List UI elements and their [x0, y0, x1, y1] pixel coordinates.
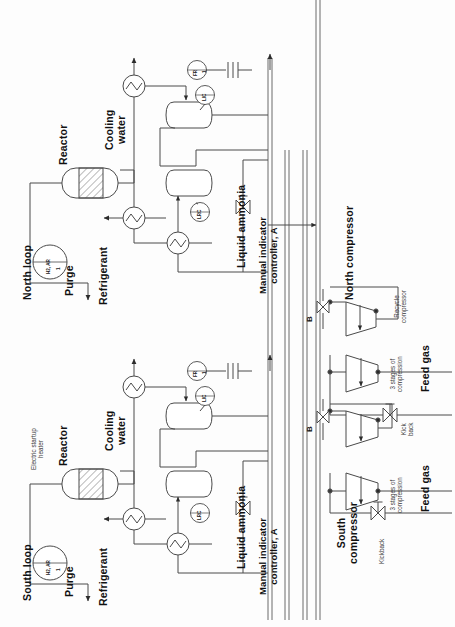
south-bypass-marker: B	[306, 426, 315, 432]
south-feed-gas-label: Feed gas	[420, 465, 432, 512]
south-separator-upper	[166, 403, 212, 429]
south-purge-label: Purge	[64, 566, 76, 597]
south-stages-label: 3 stages of compression	[389, 477, 403, 513]
south-cw-to-separator	[145, 387, 186, 401]
north-fr-orifice	[228, 62, 238, 78]
north-refrig-link	[134, 229, 167, 243]
south-separator-vapour-line	[160, 429, 196, 467]
north-kickback-label: Kick back	[400, 423, 414, 436]
south-fr-tag: FR	[193, 371, 198, 377]
south-refrigerant-chiller-2	[167, 533, 189, 555]
south-liquid-ammonia-label: Liquid ammonia	[236, 486, 248, 569]
south-h2ar-tag: H2, AR	[46, 560, 51, 575]
south-refrig-link	[134, 530, 167, 544]
north-recycle-disch-node	[374, 309, 378, 313]
south-recycle-disch-node	[376, 418, 380, 422]
south-refrigerant-label: Refrigerant	[98, 548, 110, 606]
north-h2ar-number: 1	[56, 267, 61, 270]
south-fr-number: 1	[202, 371, 207, 374]
north-cooling-water-exchanger	[123, 75, 145, 97]
north-sep-vapour-to-header	[178, 254, 268, 272]
north-recycle-compressor-label: Recycle compressor	[393, 290, 407, 323]
south-bypass-valve	[317, 411, 329, 423]
north-lic-tag: LIC	[202, 94, 207, 101]
south-lrc-tag: LRC	[197, 511, 202, 520]
north-separator-upper	[166, 102, 212, 128]
north-cooling-water-label: Cooling water	[104, 110, 128, 150]
north-feed-gas-compressor-body	[346, 355, 378, 392]
south-recycle-compressor-body	[346, 411, 378, 447]
process-flow-diagram-canvas	[0, 0, 455, 627]
south-separator-lower	[166, 471, 212, 497]
south-loop-title: South loop	[22, 544, 34, 601]
north-fr-number: 1	[202, 70, 207, 73]
south-kickback-valve	[371, 502, 385, 520]
north-separator-lower	[166, 170, 212, 196]
north-purge-line	[30, 283, 88, 300]
north-refrigerant-label: Refrigerant	[98, 247, 110, 305]
south-refrigerant-chiller-1	[123, 508, 145, 530]
north-reactor-label: Reactor	[58, 125, 70, 166]
south-lic-tag: LIC	[202, 395, 207, 402]
north-feed-disch-node	[376, 370, 380, 374]
south-sep-vapour-to-header	[178, 555, 268, 573]
north-separator-vapour-line	[160, 128, 196, 166]
south-loop-recycle-to-header	[196, 451, 268, 467]
north-liquid-ammonia-label: Liquid ammonia	[236, 185, 248, 268]
north-lrc-tag: LRC	[197, 210, 202, 219]
south-cooling-water-label: Cooling water	[104, 411, 128, 451]
north-stages-label: 3 stages of compression	[389, 356, 403, 392]
south-manual-indicator-controller-label: Manual indicator controller, A	[258, 518, 279, 595]
north-refrigerant-chiller-2	[167, 232, 189, 254]
south-kickback-label: Kickback	[378, 539, 385, 564]
north-bypass-valve	[317, 301, 329, 313]
north-purge-label: Purge	[64, 265, 76, 296]
south-purge-line	[30, 584, 88, 601]
south-feed-disch-node	[376, 489, 380, 493]
north-compressor-group	[317, 287, 452, 422]
north-h2ar-tag: H2, AR	[46, 259, 51, 274]
north-bypass-marker: B	[306, 316, 315, 322]
north-recycle-compressor-body	[346, 302, 376, 336]
north-feed-gas-label: Feed gas	[420, 345, 432, 392]
north-reactor	[62, 168, 118, 198]
south-reactor	[62, 469, 118, 499]
south-h2ar-number: 1	[56, 568, 61, 571]
south-fr-orifice	[228, 363, 238, 379]
north-fr-tag: FR	[193, 70, 198, 76]
north-chiller1-top	[120, 170, 134, 207]
north-refrigerant-chiller-1	[123, 207, 145, 229]
south-cooling-water-exchanger	[123, 376, 145, 398]
south-loop-group	[30, 355, 270, 601]
south-compressor-title: South compressor	[336, 502, 360, 564]
pfd-page: North loop Reactor Purge Refrigerant Coo…	[0, 0, 455, 627]
north-manual-indicator-controller-label: Manual indicator controller, A	[258, 217, 279, 294]
north-loop-title: North loop	[22, 245, 34, 300]
south-chiller1-top	[120, 471, 134, 508]
north-compressor-title: North compressor	[344, 206, 356, 300]
north-cw-to-separator	[145, 86, 186, 100]
north-loop-recycle-to-header	[196, 150, 268, 166]
south-reactor-label: Reactor	[58, 426, 70, 467]
south-electric-startup-heater-label: Electric startup heater	[30, 428, 44, 470]
north-kickback-valve	[383, 404, 397, 422]
